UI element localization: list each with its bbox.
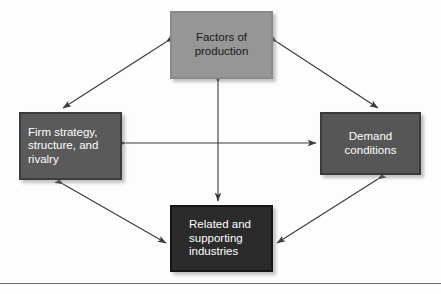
- node-demand-line-2: conditions: [345, 144, 397, 158]
- node-related-supporting-industries[interactable]: Related and supporting industries: [170, 205, 273, 272]
- bottom-divider: [0, 283, 441, 284]
- node-related-line-1: Related and: [189, 218, 251, 232]
- node-factors-line-1: Factors of: [196, 31, 247, 45]
- connector-demand-related: [277, 179, 378, 243]
- node-demand-conditions[interactable]: Demand conditions: [320, 112, 421, 175]
- node-related-line-3: industries: [189, 245, 238, 259]
- node-factors-line-2: production: [195, 45, 249, 59]
- node-firm-strategy-structure-rivalry[interactable]: Firm strategy, structure, and rivalry: [19, 112, 122, 180]
- connector-firm-related: [63, 184, 166, 243]
- diagram-canvas: Factors of production Firm strategy, str…: [0, 0, 441, 294]
- node-factors-of-production[interactable]: Factors of production: [170, 11, 273, 79]
- node-firm-line-1: Firm strategy,: [28, 126, 97, 140]
- node-related-line-2: supporting: [189, 232, 243, 246]
- node-demand-line-1: Demand: [349, 130, 392, 144]
- node-firm-line-3: rivalry: [28, 153, 59, 167]
- connector-factors-firm: [63, 42, 166, 108]
- node-firm-line-2: structure, and: [28, 139, 98, 153]
- connector-factors-demand: [277, 42, 378, 108]
